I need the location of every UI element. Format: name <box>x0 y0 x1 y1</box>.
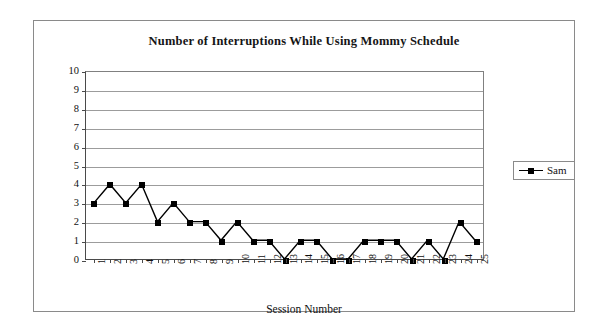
y-axis-tick-label: 8 <box>57 104 79 115</box>
data-point-marker[interactable] <box>314 239 320 245</box>
y-axis-tick-label: 4 <box>57 179 79 190</box>
x-axis-tick-label: 14 <box>304 254 314 264</box>
data-point-marker[interactable] <box>139 182 145 188</box>
x-axis-tick-label: 4 <box>145 259 155 264</box>
x-axis-tick-label: 1 <box>97 259 107 264</box>
plot-area <box>85 71 484 260</box>
x-axis-tick-label: 6 <box>177 259 187 264</box>
data-point-marker[interactable] <box>155 220 161 226</box>
x-axis-tick-label: 16 <box>336 254 346 264</box>
data-point-marker[interactable] <box>251 239 257 245</box>
x-axis-tick-label: 21 <box>416 254 426 264</box>
y-axis-tick-label: 10 <box>57 66 79 77</box>
x-axis-tick-label: 7 <box>193 259 203 264</box>
data-point-marker[interactable] <box>203 220 209 226</box>
x-axis-tick-label: 2 <box>113 259 123 264</box>
data-point-marker[interactable] <box>107 182 113 188</box>
data-point-marker[interactable] <box>378 239 384 245</box>
data-point-marker[interactable] <box>298 239 304 245</box>
x-axis-tick-label: 19 <box>384 254 394 264</box>
data-point-marker[interactable] <box>171 201 177 207</box>
data-point-marker[interactable] <box>426 239 432 245</box>
x-axis-tick-label: 22 <box>432 254 442 264</box>
y-axis-tick-label: 1 <box>57 236 79 247</box>
y-axis-tick-label: 9 <box>57 85 79 96</box>
y-axis-tick-label: 2 <box>57 217 79 228</box>
y-axis-tick-label: 3 <box>57 198 79 209</box>
y-axis-tick-label: 7 <box>57 123 79 134</box>
x-axis-tick-label: 11 <box>257 254 267 264</box>
x-axis-tick-label: 17 <box>352 254 362 264</box>
x-axis-title: Session Number <box>34 303 574 315</box>
data-point-marker[interactable] <box>474 239 480 245</box>
x-axis-tick-label: 3 <box>129 259 139 264</box>
data-point-marker[interactable] <box>219 239 225 245</box>
x-axis-tick-label: 8 <box>209 259 219 264</box>
x-axis-tick-label: 23 <box>448 254 458 264</box>
x-axis-tick-label: 24 <box>464 254 474 264</box>
x-axis-tick-label: 18 <box>368 254 378 264</box>
y-axis-tick-label: 0 <box>57 255 79 266</box>
y-axis-tick-label: 5 <box>57 161 79 172</box>
x-axis-tick-label: 13 <box>289 254 299 264</box>
data-point-marker[interactable] <box>123 201 129 207</box>
data-point-marker[interactable] <box>91 201 97 207</box>
x-axis-tick-label: 5 <box>161 259 171 264</box>
legend-item-label: Sam <box>547 165 567 176</box>
y-axis-tick-label: 6 <box>57 142 79 153</box>
x-axis-tick-label: 9 <box>225 259 235 264</box>
data-point-marker[interactable] <box>458 220 464 226</box>
y-axis-tick-labels: 012345678910 <box>55 71 79 260</box>
chart-legend[interactable]: Sam <box>513 161 575 180</box>
data-point-marker[interactable] <box>267 239 273 245</box>
x-axis-tick-label: 20 <box>400 254 410 264</box>
legend-marker-icon <box>519 166 543 175</box>
data-point-marker[interactable] <box>362 239 368 245</box>
x-axis-tick-label: 12 <box>273 254 283 264</box>
data-point-marker[interactable] <box>187 220 193 226</box>
series-line-sam <box>86 72 483 259</box>
data-point-marker[interactable] <box>235 220 241 226</box>
x-axis-tick-label: 10 <box>241 254 251 264</box>
x-axis-tick-labels: 1234567891011121314151617181920212223242… <box>85 262 484 298</box>
chart-frame: Number of Interruptions While Using Momm… <box>33 20 575 312</box>
chart-title: Number of Interruptions While Using Momm… <box>34 34 574 49</box>
x-axis-tick-label: 15 <box>320 254 330 264</box>
data-point-marker[interactable] <box>394 239 400 245</box>
x-axis-tick-label: 25 <box>480 254 490 264</box>
